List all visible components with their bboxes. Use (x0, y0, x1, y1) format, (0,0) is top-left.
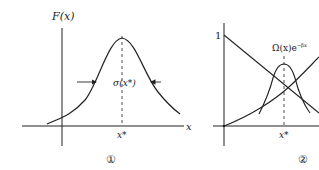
fig2-increasing-curve (224, 57, 319, 126)
fig2-bell-curve (259, 64, 310, 114)
fig2-curve-label: Ω(x)e−βx (272, 42, 307, 53)
fig2-curve-label-sup: −βx (297, 42, 307, 49)
fig1-width-label: σ(x*) (113, 78, 136, 88)
diagram-canvas: F(x) x σ(x*) x* ① 1 Ω(x)e−βx x* ② (0, 0, 319, 170)
fig1-peak-label: x* (117, 130, 127, 140)
fig2-y-tick-label: 1 (215, 30, 221, 41)
fig1-x-axis-label: x (186, 121, 192, 132)
figure-1: F(x) x σ(x*) x* ① (22, 10, 192, 166)
fig2-number-label: ② (298, 153, 308, 166)
fig2-peak-label: x* (279, 130, 289, 140)
fig1-y-axis-label: F(x) (51, 10, 74, 23)
fig2-curve-label-main: Ω(x)e (272, 43, 297, 53)
figure-2: 1 Ω(x)e−βx x* ② (213, 23, 319, 166)
fig1-number-label: ① (106, 153, 116, 166)
fig2-origin-dot (223, 125, 226, 128)
